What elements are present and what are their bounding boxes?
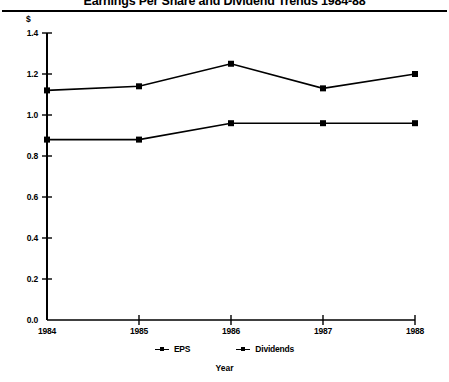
series-line-eps xyxy=(47,64,415,91)
data-point-eps-1987 xyxy=(320,85,326,91)
data-point-dividends-1988 xyxy=(412,120,418,126)
series-layer xyxy=(44,61,418,143)
legend-marker-icon xyxy=(155,345,169,354)
data-point-dividends-1985 xyxy=(136,137,142,143)
chart-figure: Earnings Per Share and Dividend Trends 1… xyxy=(0,0,449,382)
plot-area xyxy=(0,0,449,382)
data-point-dividends-1987 xyxy=(320,120,326,126)
legend-entry-eps: EPS xyxy=(155,344,190,354)
legend-marker-icon xyxy=(236,345,250,354)
data-point-eps-1984 xyxy=(44,87,50,93)
legend-entry-dividends: Dividends xyxy=(236,344,294,354)
data-point-eps-1988 xyxy=(412,71,418,77)
legend-label-dividends: Dividends xyxy=(255,344,294,354)
data-point-dividends-1984 xyxy=(44,137,50,143)
data-point-eps-1986 xyxy=(228,61,234,67)
chart-legend: EPS Dividends xyxy=(0,344,449,354)
legend-label-eps: EPS xyxy=(174,344,190,354)
data-point-dividends-1986 xyxy=(228,120,234,126)
x-axis-title: Year xyxy=(0,363,449,373)
data-point-eps-1985 xyxy=(136,83,142,89)
